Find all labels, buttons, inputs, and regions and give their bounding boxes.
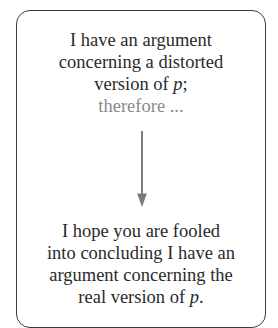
argument-box: I have an argument concerning a distorte… (16, 10, 266, 328)
conclusion-line-4: real version of p. (17, 286, 265, 308)
premise-line-3-text: version of (94, 74, 173, 94)
conclusion-line-2: into concluding I have an (17, 242, 265, 264)
premise-line-2: concerning a distorted (17, 51, 265, 73)
premise-punctuation: ; (183, 74, 188, 94)
premise-text: I have an argument concerning a distorte… (17, 29, 265, 117)
conclusion-punctuation: . (199, 287, 204, 307)
down-arrow-icon (136, 131, 148, 209)
conclusion-variable: p (190, 287, 199, 307)
premise-line-3: version of p; (17, 73, 265, 95)
premise-line-1: I have an argument (17, 29, 265, 51)
premise-variable: p (173, 74, 182, 94)
conclusion-line-1: I hope you are fooled (17, 220, 265, 242)
conclusion-text: I hope you are fooled into concluding I … (17, 220, 265, 308)
conclusion-line-3: argument concerning the (17, 264, 265, 286)
conclusion-line-4-text: real version of (78, 287, 189, 307)
therefore-text: therefore ... (17, 95, 265, 117)
